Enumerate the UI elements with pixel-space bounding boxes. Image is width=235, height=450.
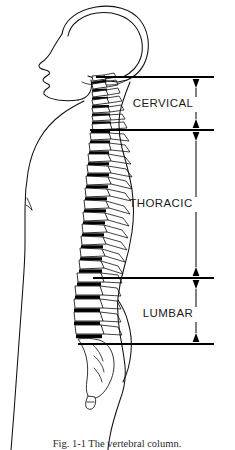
vertebra-t8 [83, 212, 108, 221]
vertebra-t1 [90, 133, 111, 140]
vertebra-l4 [74, 312, 103, 321]
disc-l2-l3 [75, 295, 100, 299]
label-thoracic: THORACIC [129, 197, 192, 209]
vertebral-column-illustration: CERVICAL THORACIC LUMBAR Fig. 1-1 The ve… [0, 0, 235, 450]
disc-l3-l4 [74, 308, 100, 312]
vertebra-t7 [84, 200, 109, 209]
disc-l4-l5 [74, 321, 100, 325]
vertebra-l5 [75, 325, 104, 334]
vertebra-t11 [80, 248, 105, 257]
vertebra-t10 [81, 236, 106, 245]
vertebra-t2 [89, 143, 111, 151]
vertebra-t3 [88, 154, 111, 162]
label-lumbar: LUMBAR [143, 307, 193, 319]
vertebra-c7 [92, 123, 112, 130]
figure-background [0, 0, 235, 450]
vertebra-t12 [79, 260, 104, 269]
vertebra-t6 [85, 188, 110, 197]
disc-t12-l1 [79, 269, 102, 272]
label-cervical: CERVICAL [133, 97, 194, 109]
vertebra-c5 [92, 107, 110, 113]
vertebra-t9 [82, 224, 107, 233]
vertebra-l3 [74, 299, 103, 308]
disc-l1-l2 [77, 282, 101, 286]
vertebra-l2 [75, 286, 103, 295]
vertebra-t4 [87, 165, 111, 173]
vertebra-c6 [92, 115, 111, 121]
figure-container: CERVICAL THORACIC LUMBAR Fig. 1-1 The ve… [0, 0, 235, 450]
figure-caption: Fig. 1-1 The vertebral column. [53, 438, 182, 449]
vertebra-t5 [86, 176, 111, 185]
coccyx [86, 396, 96, 409]
disc-l5-s1 [76, 334, 102, 338]
